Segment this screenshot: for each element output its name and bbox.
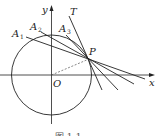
radius-op-dashed [52,59,90,75]
origin-label: O [53,78,61,89]
figure-caption: 图 1-1 [55,132,81,136]
tangent-t-label: T [70,6,78,17]
secant-line-a1 [26,37,145,79]
a1-label: A [11,28,19,39]
x-axis-label: x [149,77,155,88]
a3-label: A [58,23,66,34]
secant-line-a3 [66,35,118,90]
a1-subscript: 1 [20,33,24,40]
secant-line-a2 [41,32,134,84]
tangent-line-pt [69,16,102,90]
a2-subscript: 2 [38,26,42,33]
point-p-label: P [88,46,96,57]
y-axis-arrow-icon [50,5,54,11]
a3-subscript: 3 [67,28,71,35]
y-axis-label: y [41,4,48,15]
a2-label: A [29,21,37,32]
secant-tangent-diagram: y x O P T A 1 A 2 A 3 图 1-1 [0,0,157,136]
